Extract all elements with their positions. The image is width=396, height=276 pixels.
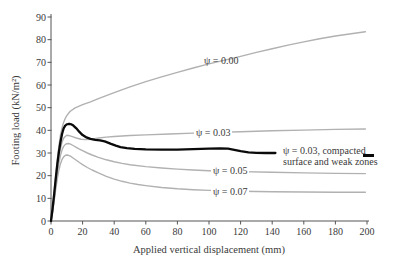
x-tick-label: 200	[353, 226, 381, 237]
y-tick-label: 50	[0, 102, 46, 113]
y-tick-label: 0	[0, 216, 46, 227]
x-tick-label: 80	[163, 226, 191, 237]
y-tick-label: 60	[0, 80, 46, 91]
x-tick-label: 60	[132, 226, 160, 237]
y-tick-label: 30	[0, 148, 46, 159]
x-tick-label: 100	[195, 226, 223, 237]
y-tick-label: 70	[0, 57, 46, 68]
x-tick-label: 180	[321, 226, 349, 237]
x-tick-label: 20	[69, 226, 97, 237]
footing-load-chart: 0102030405060708090020406080100120140160…	[0, 0, 396, 276]
y-axis-title: Footing load (kN/m²)	[10, 46, 23, 196]
curve-psi-003	[51, 129, 365, 221]
y-tick-label: 80	[0, 34, 46, 45]
x-tick-label: 40	[100, 226, 128, 237]
black-curve-legend-dash-icon	[363, 154, 374, 157]
x-tick-label: 160	[290, 226, 318, 237]
x-axis-title: Applied vertical displacement (mm)	[51, 244, 367, 255]
y-tick-label: 10	[0, 193, 46, 204]
y-tick-label: 90	[0, 12, 46, 23]
black-curve-annotation-line2: surface and weak zones	[283, 156, 378, 167]
y-tick-label: 20	[0, 170, 46, 181]
x-tick-label: 120	[227, 226, 255, 237]
curve-label-psi-007: ψ = 0.07	[211, 186, 249, 197]
curve-label-psi-003: ψ = 0.03	[194, 127, 232, 138]
y-tick-label: 40	[0, 125, 46, 136]
curve-label-psi-000: ψ = 0.00	[204, 55, 238, 66]
curve-label-psi-005: ψ = 0.05	[211, 165, 249, 176]
x-tick-label: 140	[258, 226, 286, 237]
x-tick-label: 0	[37, 226, 65, 237]
